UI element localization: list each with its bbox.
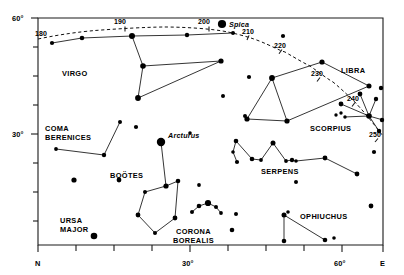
star	[284, 159, 288, 163]
star	[118, 120, 122, 124]
x-axis-label-n: N	[35, 259, 41, 268]
star	[176, 179, 181, 184]
star	[369, 204, 374, 209]
star	[355, 172, 360, 177]
star	[190, 210, 194, 214]
star	[134, 125, 138, 129]
star	[235, 160, 239, 164]
ecliptic-degree-labels: 180 190 200 210 220 230 240 250	[35, 18, 381, 138]
libra-base	[287, 86, 369, 121]
virgo-chain	[52, 33, 233, 43]
star	[247, 75, 251, 79]
star	[380, 118, 384, 122]
star	[197, 183, 201, 187]
bootes-kite	[138, 181, 178, 233]
ecliptic-tick-210	[247, 35, 249, 40]
star	[379, 86, 383, 90]
star	[231, 150, 235, 154]
star	[339, 102, 344, 107]
ecliptic-path	[38, 27, 383, 136]
ecliptic-label-230: 230	[311, 70, 323, 77]
star	[173, 216, 178, 221]
star	[339, 111, 342, 114]
star	[374, 97, 378, 101]
label-ophiuchus: OPHIUCHUS	[300, 212, 348, 221]
ecliptic-label-190: 190	[114, 18, 126, 25]
star	[290, 158, 294, 162]
libra-triangle	[247, 78, 287, 121]
star	[367, 84, 372, 89]
star	[372, 150, 376, 154]
star	[221, 94, 225, 98]
star	[163, 183, 168, 188]
star-spica	[218, 20, 226, 28]
star	[136, 213, 141, 218]
star	[259, 158, 263, 162]
star	[135, 95, 141, 101]
star	[91, 233, 98, 240]
ecliptic-label-250: 250	[369, 131, 381, 138]
star	[140, 63, 146, 69]
label-libra: LIBRA	[341, 66, 366, 75]
ecliptic-tick-250	[375, 139, 378, 143]
star	[282, 239, 287, 244]
scorpius-head-link	[344, 116, 369, 117]
label-corona-line1: CORONA	[176, 227, 211, 236]
label-arcturus: Arcturus	[167, 131, 200, 140]
star	[234, 212, 238, 216]
star	[323, 156, 328, 161]
star	[271, 141, 276, 146]
label-corona-line2: BOREALIS	[173, 236, 214, 245]
y-axis-label-30: 30°	[12, 130, 24, 139]
star	[153, 231, 157, 235]
star	[197, 204, 202, 209]
star	[332, 236, 336, 240]
star	[250, 157, 255, 162]
label-ursa-line2: MAJOR	[60, 225, 89, 234]
star	[50, 41, 54, 45]
ecliptic-label-210: 210	[242, 28, 254, 35]
star	[323, 238, 328, 243]
y-axis-ticks	[31, 18, 38, 221]
star	[343, 115, 346, 118]
star	[231, 31, 235, 35]
star	[281, 34, 285, 38]
star	[294, 180, 298, 184]
ecliptic-label-220: 220	[274, 42, 286, 49]
ecliptic-tick-230	[317, 78, 320, 82]
constellation-lines-bootes	[138, 142, 178, 233]
star	[218, 58, 223, 63]
x-axis-ticks	[38, 245, 383, 252]
y-axis-label-60: 60°	[12, 14, 24, 23]
star	[205, 200, 211, 206]
star-chart-figure: VIRGO COMA BERENICES URSA MAJOR BOÖTES C…	[0, 0, 404, 275]
star	[366, 113, 372, 119]
star	[185, 33, 189, 37]
star	[71, 177, 76, 182]
star	[244, 116, 249, 121]
sky-chart-canvas: VIRGO COMA BERENICES URSA MAJOR BOÖTES C…	[0, 0, 404, 275]
star	[334, 113, 337, 116]
ecliptic-label-240: 240	[347, 95, 359, 102]
x-axis-label-e: E	[380, 259, 385, 268]
label-coma-line1: COMA	[45, 124, 69, 133]
star	[230, 228, 235, 233]
ecliptic-tick-240	[352, 103, 355, 107]
star	[269, 75, 275, 81]
star	[143, 190, 147, 194]
label-ursa-line1: URSA	[60, 216, 83, 225]
label-scorpius: SCORPIUS	[310, 124, 351, 133]
star	[129, 33, 135, 39]
star	[54, 147, 58, 151]
x-axis-label-30: 30°	[182, 259, 194, 268]
x-axis-label-60: 60°	[334, 259, 346, 268]
star	[214, 205, 218, 209]
star	[234, 139, 239, 144]
star	[102, 153, 106, 157]
label-coma-line2: BERENICES	[45, 133, 91, 142]
star	[282, 213, 287, 218]
ecliptic-label-180: 180	[35, 30, 47, 37]
star	[294, 159, 298, 163]
constellation-labels: VIRGO COMA BERENICES URSA MAJOR BOÖTES C…	[45, 66, 366, 245]
star	[286, 210, 290, 214]
